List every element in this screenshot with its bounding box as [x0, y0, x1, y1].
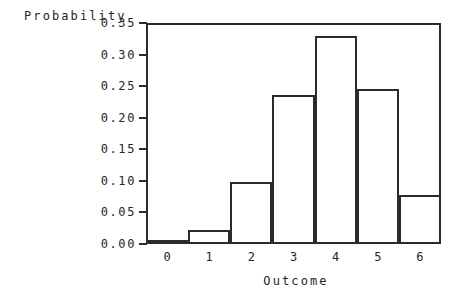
x-axis-title-text: Outcome [131, 274, 328, 288]
y-axis-tick-label: 0.00 [82, 237, 136, 251]
y-axis-tick-label: 0.25 [82, 79, 136, 93]
y-axis-tick-label: 0.30 [82, 48, 136, 62]
x-axis-tick-label: 4 [316, 250, 356, 264]
bar-0 [146, 240, 188, 244]
x-axis-tick-label: 3 [274, 250, 314, 264]
bar-3 [272, 95, 314, 244]
x-axis-tick-label: 2 [231, 250, 271, 264]
x-axis-tick-label: 5 [358, 250, 398, 264]
y-axis-tick-label: 0.20 [82, 111, 136, 125]
x-axis-title: Outcome [0, 274, 460, 288]
y-axis-tick-label: 0.35 [82, 16, 136, 30]
x-axis-tick-label: 0 [147, 250, 187, 264]
probability-histogram-chart: Probability 0.000.050.100.150.200.250.30… [0, 0, 460, 305]
x-axis-tick-label: 6 [400, 250, 440, 264]
bar-5 [357, 89, 399, 244]
bars-container [146, 23, 441, 244]
y-axis-tick-label: 0.10 [82, 174, 136, 188]
bar-1 [188, 230, 230, 244]
bar-2 [230, 182, 272, 244]
x-axis-tick-label: 1 [189, 250, 229, 264]
y-axis-tick-label: 0.15 [82, 142, 136, 156]
bar-4 [315, 36, 357, 244]
bar-6 [399, 195, 441, 244]
y-axis-tick-label: 0.05 [82, 205, 136, 219]
